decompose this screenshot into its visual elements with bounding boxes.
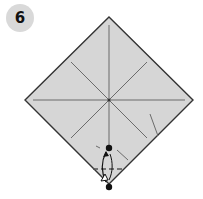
origami-diagram <box>0 0 203 199</box>
center-point <box>108 99 111 102</box>
fold-target-dot <box>106 145 112 151</box>
fold-corner-dot <box>106 184 112 190</box>
